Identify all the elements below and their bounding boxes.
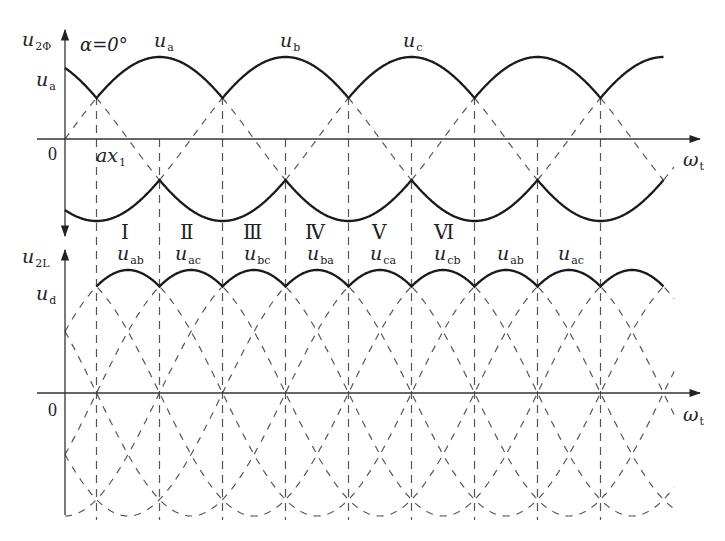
upper-x-axis-label: ωt [683, 150, 704, 172]
segment-3-numeral: Ⅲ [243, 222, 262, 242]
commutation-dashed-lines [97, 97, 601, 520]
segment-7-voltage: uab [497, 244, 524, 266]
phase-label-ua: ua [154, 31, 174, 53]
line-sine-dashed [287, 288, 600, 516]
segment-5-numeral: Ⅴ [372, 222, 386, 242]
line-sine-dashed [65, 288, 96, 332]
line-sine-dashed [161, 288, 474, 516]
commutation-point-label: ax1 [96, 146, 126, 168]
phase-label-ub: ub [280, 31, 300, 53]
segment-6-voltage: ucb [434, 244, 460, 266]
line-sine-dashed [65, 288, 158, 455]
segment-4-numeral: Ⅳ [305, 222, 325, 242]
lower-x-axis-label: ωt [683, 405, 704, 427]
upper-y-axis-label: u2Φ [22, 30, 51, 52]
phase-sine-dashed [65, 98, 97, 139]
segment-3-voltage: ubc [244, 244, 270, 266]
lower-y-axis-label: u2L [22, 247, 50, 269]
segment-1-numeral: Ⅰ [121, 222, 129, 242]
alpha-label: α=0° [80, 36, 128, 54]
segment-6-numeral: Ⅵ [434, 222, 454, 242]
line-sine-dashed [539, 288, 675, 509]
line-sine-dashed [350, 288, 663, 516]
segment-2-voltage: uac [175, 244, 201, 266]
ud-envelope-curve [97, 270, 664, 287]
segment-5-voltage: uca [370, 244, 396, 266]
lower-line-sine-dashed [65, 288, 674, 516]
envelope-ua-label: ua [36, 70, 56, 92]
line-sine-dashed [602, 288, 674, 415]
segment-4-voltage: uba [307, 244, 334, 266]
segment-8-voltage: uac [558, 244, 584, 266]
segment-2-numeral: Ⅱ [180, 222, 194, 242]
rectifier-waveform-diagram [0, 0, 725, 541]
line-sine-dashed [413, 288, 674, 516]
segment-1-voltage: uab [117, 244, 144, 266]
ud-label: ud [36, 284, 56, 306]
phase-label-uc: uc [403, 31, 422, 53]
line-sine-dashed [665, 288, 674, 299]
positive-envelope-curve [65, 57, 664, 98]
lower-origin-label: 0 [48, 401, 57, 419]
line-sine-dashed [65, 288, 222, 516]
line-sine-dashed [65, 288, 285, 516]
negative-envelope-curve [65, 180, 664, 221]
line-sine-dashed [224, 288, 537, 516]
phase-sine-dashed [664, 167, 675, 180]
line-sine-dashed [65, 288, 347, 516]
upper-origin-label: 0 [48, 145, 57, 163]
